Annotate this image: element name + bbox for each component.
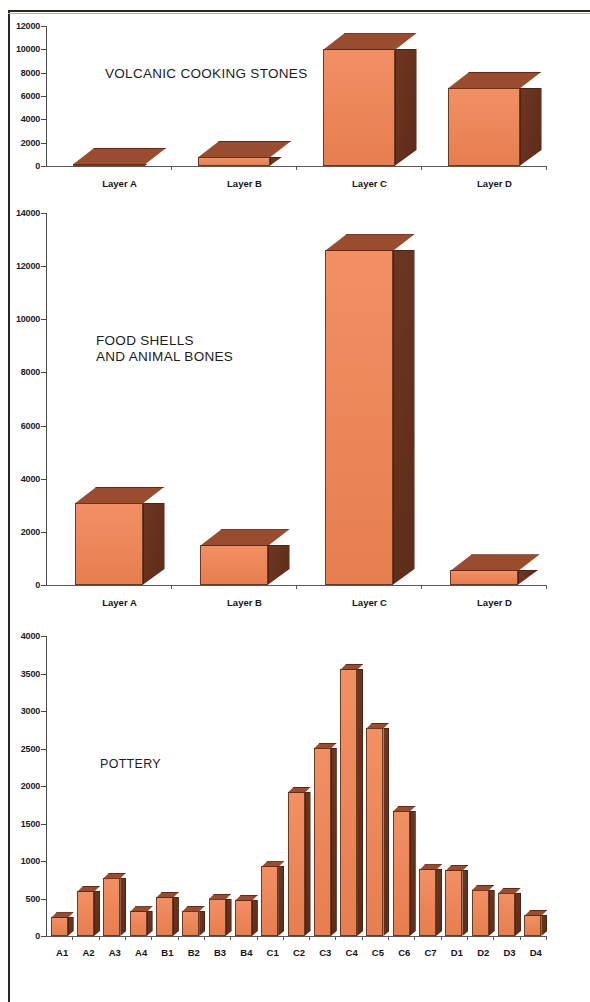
y-axis-tick (41, 674, 46, 675)
x-axis-tick (335, 936, 336, 940)
x-axis-category-label: B2 (188, 947, 200, 958)
y-axis-tick (41, 861, 46, 862)
bar-front-face (472, 890, 489, 937)
x-axis-tick (467, 936, 468, 940)
y-axis-tick-label: 2000 (0, 781, 40, 791)
bar (51, 917, 68, 936)
y-axis-tick-label: 4000 (0, 474, 40, 484)
x-axis-tick (441, 936, 442, 940)
bar (156, 897, 173, 936)
x-axis-category-label: C2 (293, 947, 305, 958)
bar-front-face (261, 866, 278, 936)
y-axis-line (46, 26, 47, 166)
bar-side-face (199, 911, 205, 937)
y-axis-tick (41, 426, 46, 427)
bar (77, 891, 94, 936)
y-axis-tick-label: 2000 (0, 527, 40, 537)
page-frame-top-rule-secondary (8, 13, 590, 14)
bar-top-face (200, 529, 290, 546)
bar-front-face (209, 899, 226, 937)
bar (325, 250, 393, 585)
bar-top-face (450, 554, 540, 571)
x-axis-category-label: C6 (398, 947, 410, 958)
x-axis-tick (204, 936, 205, 940)
x-axis-category-label: A4 (135, 947, 147, 958)
x-axis-tick (72, 936, 73, 940)
x-axis-tick (283, 936, 284, 940)
x-axis-tick (414, 936, 415, 940)
bar-side-face (410, 811, 416, 936)
bar-top-face (73, 148, 167, 165)
y-axis-tick-label: 3500 (0, 669, 40, 679)
bar-front-face (366, 728, 383, 937)
x-axis-category-label: C7 (425, 947, 437, 958)
bar-top-face (75, 487, 165, 504)
bar-front-face (288, 792, 305, 936)
x-axis-category-label: C4 (346, 947, 358, 958)
x-axis-tick (388, 936, 389, 940)
x-axis-category-label: Layer B (227, 178, 262, 189)
y-axis-line (46, 636, 47, 936)
y-axis-tick-label: 14000 (0, 208, 40, 218)
bar-side-face (520, 88, 542, 166)
y-axis-tick-label: 6000 (0, 91, 40, 101)
y-axis-tick-label: 4000 (0, 631, 40, 641)
y-axis-tick (41, 119, 46, 120)
bar (445, 870, 462, 936)
y-axis-tick (41, 49, 46, 50)
bar-side-face (226, 899, 232, 937)
bar-front-face (325, 250, 393, 585)
x-axis-tick (99, 936, 100, 940)
bar-front-face (448, 88, 520, 166)
bar (314, 748, 331, 936)
y-axis-tick-label: 10000 (0, 314, 40, 324)
bar-side-face (268, 545, 290, 585)
bar (419, 869, 436, 936)
bar-side-face (393, 250, 415, 585)
x-axis-tick (178, 936, 179, 940)
x-axis-tick (421, 166, 422, 170)
bar-front-face (51, 917, 68, 936)
bar (130, 911, 147, 936)
x-axis-tick (257, 936, 258, 940)
bar (200, 545, 268, 585)
bar (393, 811, 410, 936)
bar-side-face (120, 878, 126, 937)
plot-area: 020004000600080001000012000Layer ALayer … (46, 26, 546, 166)
y-axis-tick-label: 3000 (0, 706, 40, 716)
y-axis-tick-label: 12000 (0, 21, 40, 31)
bar-side-face (270, 157, 292, 166)
bar-side-face (68, 917, 74, 936)
x-axis-tick (546, 585, 547, 589)
y-axis-tick (41, 319, 46, 320)
x-axis-tick (230, 936, 231, 940)
x-axis-category-label: Layer C (352, 178, 387, 189)
y-axis-tick-label: 8000 (0, 367, 40, 377)
x-axis-category-label: D4 (530, 947, 542, 958)
bar-front-face (200, 545, 268, 585)
bar-side-face (395, 49, 417, 166)
y-axis-tick-label: 2500 (0, 744, 40, 754)
x-axis-tick (546, 166, 547, 170)
y-axis-tick (41, 936, 46, 937)
bar (524, 915, 541, 936)
y-axis-tick (41, 749, 46, 750)
chart-food-shells-and-animal-bones: FOOD SHELLS AND ANIMAL BONES020004000600… (0, 205, 590, 605)
y-axis-tick (41, 824, 46, 825)
bar (450, 570, 518, 585)
bar (340, 669, 357, 936)
y-axis-tick-label: 12000 (0, 261, 40, 271)
bar-side-face (252, 900, 258, 936)
bar-front-face (314, 748, 331, 936)
y-axis-tick (41, 96, 46, 97)
bar-side-face (147, 911, 153, 936)
x-axis-category-label: A2 (82, 947, 94, 958)
bar-front-face (323, 49, 395, 166)
y-axis-tick-label: 10000 (0, 44, 40, 54)
bar-front-face (198, 157, 270, 166)
bar-side-face (143, 503, 165, 585)
bar-front-face (450, 570, 518, 585)
x-axis-category-label: Layer D (477, 597, 512, 608)
x-axis-tick (362, 936, 363, 940)
bar (261, 866, 278, 936)
